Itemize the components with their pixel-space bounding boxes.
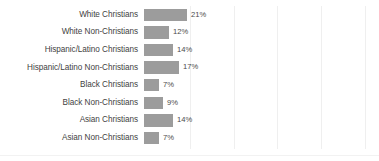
- category-label: Hispanic/Latino Christians: [0, 45, 138, 55]
- bar-container: 14%: [144, 44, 192, 56]
- bar[interactable]: [144, 97, 163, 109]
- bar-row: Hispanic/Latino Non-Christians17%: [0, 59, 379, 77]
- category-label: Asian Non-Christians: [0, 133, 138, 143]
- chart-plot-area: White Christians21%White Non-Christians1…: [0, 6, 379, 150]
- bar-value-label: 7%: [163, 79, 174, 91]
- bar-container: 7%: [144, 132, 174, 144]
- bar-value-label: 9%: [167, 97, 178, 109]
- bar-row: Black Christians7%: [0, 76, 379, 94]
- bar-row: Black Non-Christians9%: [0, 94, 379, 112]
- bar-row: Asian Christians14%: [0, 112, 379, 130]
- bar-value-label: 12%: [173, 26, 188, 38]
- bar-value-label: 17%: [183, 61, 198, 73]
- bar[interactable]: [144, 79, 159, 91]
- bar-container: 12%: [144, 26, 188, 38]
- category-label: Black Christians: [0, 80, 138, 90]
- category-label: Asian Christians: [0, 115, 138, 125]
- bar-value-label: 21%: [191, 9, 206, 21]
- bar-row: White Christians21%: [0, 6, 379, 24]
- bar[interactable]: [144, 26, 169, 38]
- bar[interactable]: [144, 9, 187, 21]
- bar-chart: White Christians21%White Non-Christians1…: [0, 0, 379, 161]
- bar-row: White Non-Christians12%: [0, 24, 379, 42]
- category-label: Black Non-Christians: [0, 98, 138, 108]
- category-label: White Christians: [0, 10, 138, 20]
- bar-row: Hispanic/Latino Christians14%: [0, 41, 379, 59]
- bar[interactable]: [144, 61, 179, 73]
- bar-container: 17%: [144, 61, 198, 73]
- bar[interactable]: [144, 114, 173, 126]
- bottom-rule: [0, 155, 379, 156]
- bar-container: 7%: [144, 79, 174, 91]
- bar[interactable]: [144, 44, 173, 56]
- category-label: White Non-Christians: [0, 27, 138, 37]
- bar-container: 21%: [144, 9, 206, 21]
- bar-container: 14%: [144, 114, 192, 126]
- bar-row: Asian Non-Christians7%: [0, 129, 379, 147]
- bar-value-label: 14%: [177, 114, 192, 126]
- bar[interactable]: [144, 132, 159, 144]
- bar-value-label: 7%: [163, 132, 174, 144]
- bar-value-label: 14%: [177, 44, 192, 56]
- category-label: Hispanic/Latino Non-Christians: [0, 63, 138, 73]
- bar-container: 9%: [144, 97, 178, 109]
